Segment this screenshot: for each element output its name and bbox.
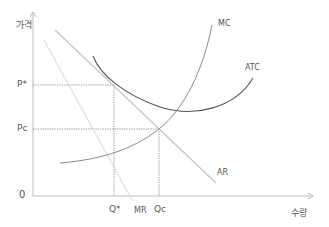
qc-label: Qc xyxy=(154,205,166,214)
q-star-label: Q* xyxy=(109,205,121,214)
x-axis-label: 수량 xyxy=(291,209,307,218)
mr-curve xyxy=(44,40,132,200)
axes xyxy=(30,12,313,199)
origin-label: 0 xyxy=(19,190,25,200)
ar-curve xyxy=(55,30,216,183)
mr-label: MR xyxy=(134,207,146,215)
mc-curve xyxy=(60,25,212,163)
guide-lines xyxy=(33,85,159,196)
ar-label: AR xyxy=(217,169,228,177)
pc-label: Pc xyxy=(17,124,27,133)
atc-curve xyxy=(93,56,253,111)
mc-label: MC xyxy=(218,20,231,28)
y-axis-label: 가격 xyxy=(16,21,32,30)
p-star-label: P* xyxy=(17,80,27,89)
monopoly-diagram: 가격 수량 0 P* Pc Q* Qc MC ATC AR MR xyxy=(0,0,329,227)
diagram-svg xyxy=(0,0,329,227)
atc-label: ATC xyxy=(245,64,260,72)
